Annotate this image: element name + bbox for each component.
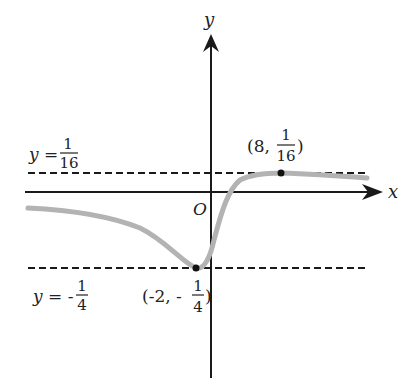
min-point-label: (-2, - 1 4 ): [142, 277, 212, 316]
svg-text:1: 1: [77, 277, 87, 295]
svg-text:1: 1: [193, 277, 203, 295]
svg-text:(8,: (8,: [247, 136, 270, 156]
svg-text:1: 1: [281, 126, 291, 144]
x-axis-label: x: [388, 181, 398, 202]
function-graph: y x O y = 1 16 y = - 1 4 (8, 1 16 ) (-2,…: [0, 0, 408, 378]
svg-text:4: 4: [193, 298, 203, 316]
svg-text:16: 16: [276, 147, 295, 165]
svg-text:16: 16: [59, 154, 78, 172]
svg-text:y = -: y = -: [32, 286, 74, 306]
svg-text:y =: y =: [28, 144, 58, 164]
svg-text:(-2, -: (-2, -: [142, 286, 182, 306]
svg-text:): ): [205, 286, 212, 306]
min-point-marker: [193, 265, 200, 272]
svg-text:): ): [297, 136, 304, 156]
svg-text:1: 1: [63, 135, 73, 153]
function-curve: [28, 173, 367, 268]
y-axis-label: y: [203, 9, 215, 30]
max-point-label: (8, 1 16 ): [247, 126, 304, 165]
lower-line-label: y = - 1 4: [32, 277, 88, 314]
max-point-marker: [278, 170, 285, 177]
origin-label: O: [193, 199, 207, 219]
svg-text:4: 4: [77, 296, 87, 314]
upper-line-label: y = 1 16: [28, 135, 79, 172]
